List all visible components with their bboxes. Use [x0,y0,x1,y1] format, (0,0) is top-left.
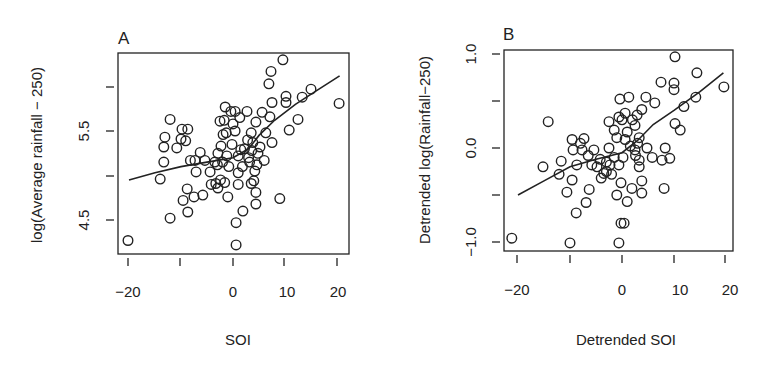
data-point [251,188,261,198]
data-point [182,184,192,194]
panel-b: B −20 0 10 20 Detrended SOI −1.0 0.0 1.0 [416,25,738,348]
data-point [183,207,193,217]
data-point [250,166,260,176]
data-point [507,233,517,243]
data-point [257,108,267,118]
data-point [231,218,241,228]
data-point [660,143,670,153]
data-point [615,94,625,104]
data-point [267,138,277,148]
data-point [627,184,637,194]
data-point [275,194,285,204]
panel-a-xtick-label: 20 [330,283,347,300]
data-point [647,153,657,163]
panel-b-y-axis-title: Detrended log(Rainfall−250) [416,56,433,244]
panel-b-y-axis: −1.0 0.0 1.0 Detrended log(Rainfall−250) [416,44,500,257]
panel-a-x-axis: −20 0 10 20 SOI [115,258,346,348]
data-point [223,192,233,202]
panel-a-ytick-label: 4.5 [75,210,92,231]
panel-a-xtick-label: −20 [115,283,140,300]
data-point [675,125,685,135]
data-point [253,149,263,159]
data-point [634,162,644,172]
data-point [612,190,622,200]
data-point [581,198,591,208]
data-point [293,115,303,125]
panel-a-y-axis-title: log(Average rainfall − 250) [28,67,45,243]
panel-a-y-axis: 4.5 5.5 log(Average rainfall − 250) [28,67,114,243]
data-point [604,143,614,153]
panel-b-xtick-label: 20 [722,281,739,298]
data-point [159,157,169,167]
data-point [584,185,594,195]
data-point [604,117,614,127]
data-point [178,196,188,206]
panel-b-ytick-label: 1.0 [462,44,479,65]
data-point [227,140,237,150]
data-point [160,132,170,142]
data-point [183,124,193,134]
data-point [264,79,274,89]
panel-a-data-points [123,55,344,250]
panel-b-ytick-label: −1.0 [462,227,479,257]
panel-a-ytick-label: 5.5 [75,121,92,142]
data-point [659,184,669,194]
data-point [538,162,548,172]
data-point [189,192,199,202]
data-point [284,125,294,135]
data-point [251,117,261,127]
panel-b-label: B [503,25,514,44]
panel-a-x-axis-title: SOI [225,331,251,348]
data-point [543,117,553,127]
data-point [255,142,265,152]
panel-b-x-axis: −20 0 10 20 Detrended SOI [504,255,738,348]
data-point [583,151,593,161]
panel-b-x-axis-title: Detrended SOI [576,331,676,348]
data-point [267,98,277,108]
figure: A −20 0 10 20 SOI 4.5 5.5 log(Average ra… [0,0,763,367]
data-point [622,197,632,207]
panel-a-xtick-label: 0 [229,283,237,300]
data-point [191,167,201,177]
data-point [692,68,702,78]
data-point [571,208,581,218]
data-point [165,213,175,223]
data-point [650,98,660,108]
data-point [251,199,261,209]
data-point [556,156,566,166]
data-point [624,92,634,102]
data-point [334,99,344,109]
data-point [266,67,276,77]
data-point [589,145,599,155]
data-point [577,145,587,155]
data-point [637,176,647,186]
data-point [233,180,243,190]
data-point [198,190,208,200]
data-point [642,143,652,153]
data-point [238,206,248,216]
data-point [719,82,729,92]
data-point [165,115,175,125]
data-point [159,142,169,152]
data-point [246,179,256,189]
data-point [670,119,680,129]
data-point [249,176,259,186]
data-point [562,187,572,197]
data-point [565,238,575,248]
data-point [231,240,241,250]
panel-a-label: A [118,29,130,48]
data-point [637,188,647,198]
panel-b-plot-frame [504,50,733,251]
data-point [278,55,288,65]
panel-b-data-points [507,52,729,248]
data-point [641,92,651,102]
data-point [614,238,624,248]
data-point [656,77,666,87]
data-point [155,174,165,184]
panel-b-xtick-label: 0 [618,281,626,298]
panel-b-xtick-label: 10 [672,281,689,298]
data-point [669,85,679,95]
data-point [281,98,291,108]
data-point [221,128,231,138]
panel-a-xtick-label: 10 [279,283,296,300]
